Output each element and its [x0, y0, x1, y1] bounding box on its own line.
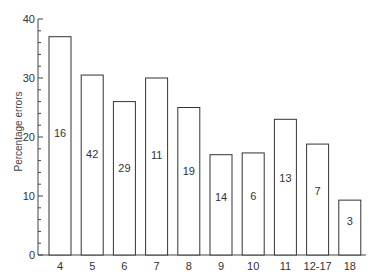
bar-count-label: 14 — [215, 191, 227, 203]
bar-10 — [242, 153, 264, 255]
bar-count-label: 3 — [347, 215, 353, 227]
bar-6 — [113, 102, 135, 255]
x-tick-label: 6 — [121, 260, 127, 272]
y-tick-label: 30 — [23, 72, 35, 84]
bar-9 — [210, 155, 232, 255]
bar-count-label: 7 — [315, 185, 321, 197]
plot-area: 0102030401644252961171981496101311712-17… — [0, 0, 381, 278]
x-tick-label: 4 — [57, 260, 63, 272]
bar-count-label: 13 — [279, 172, 291, 184]
y-tick-label: 40 — [23, 13, 35, 25]
bar-count-label: 19 — [183, 165, 195, 177]
x-tick-label: 9 — [218, 260, 224, 272]
bar-4 — [49, 37, 71, 255]
x-tick-label: 7 — [154, 260, 160, 272]
bar-8 — [178, 108, 200, 256]
x-tick-label: 8 — [186, 260, 192, 272]
bar-count-label: 11 — [151, 149, 162, 161]
bar-count-label: 42 — [86, 148, 98, 160]
y-tick-label: 20 — [23, 131, 35, 143]
x-tick-label: 18 — [344, 260, 356, 272]
bar-11 — [274, 119, 296, 255]
bar-count-label: 29 — [118, 162, 130, 174]
x-tick-label: 5 — [89, 260, 95, 272]
bar-7 — [146, 78, 168, 255]
bar-12-17 — [307, 144, 329, 255]
y-axis-label: Percentage errors — [13, 82, 24, 182]
bar-count-label: 16 — [54, 127, 66, 139]
bar-18 — [339, 200, 361, 255]
y-tick-label: 10 — [23, 190, 35, 202]
y-tick-label: 0 — [29, 249, 35, 261]
x-tick-label: 11 — [280, 260, 291, 272]
bar-chart: 0102030401644252961171981496101311712-17… — [0, 0, 381, 278]
bar-5 — [81, 75, 103, 255]
x-tick-label: 10 — [247, 260, 259, 272]
bar-count-label: 6 — [250, 190, 256, 202]
x-tick-label: 12-17 — [304, 260, 332, 272]
